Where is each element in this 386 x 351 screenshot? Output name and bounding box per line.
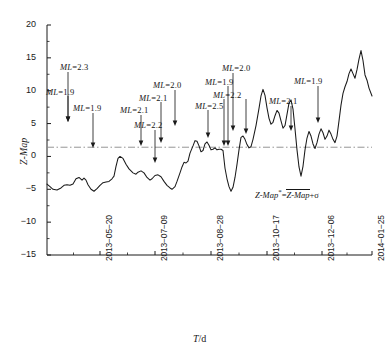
y-tick-label: −5 (6, 183, 36, 193)
arrow-head (173, 121, 178, 127)
magnitude-symbol: ML (46, 87, 58, 97)
magnitude-value: =2.1 (281, 96, 297, 106)
arrow-head (316, 118, 321, 124)
event-arrow (66, 96, 71, 122)
magnitude-symbol: ML (195, 101, 207, 111)
arrow-head (159, 138, 164, 144)
axis-lines (47, 25, 372, 255)
event-arrow (153, 130, 158, 163)
y-tick-label: 20 (6, 19, 36, 29)
x-tick-label: 2013−07−09 (159, 215, 169, 261)
magnitude-value: =1.9 (58, 87, 74, 97)
arrow-head (206, 133, 211, 139)
event-arrow (206, 110, 211, 138)
event-arrow (173, 90, 178, 126)
arrow-head (289, 126, 294, 132)
magnitude-symbol: ML (222, 63, 234, 73)
magnitude-value: =2.2 (225, 90, 241, 100)
y-tick-label: 10 (6, 85, 36, 95)
formula-overline-term: Z-Map (286, 189, 309, 200)
formula-sigma-term: +σ (310, 190, 319, 200)
x-tick-label: 2013−10−17 (271, 215, 281, 261)
magnitude-symbol: ML (294, 76, 306, 86)
magnitude-label: ML=2.5 (195, 101, 223, 111)
magnitude-label: ML=2.1 (120, 105, 148, 115)
event-arrow (244, 99, 249, 134)
magnitude-label: ML=1.9 (46, 87, 74, 97)
magnitude-value: =1.9 (217, 77, 233, 87)
magnitude-label: ML=2.1 (269, 96, 297, 106)
magnitude-label: ML=2.0 (222, 63, 250, 73)
magnitude-symbol: ML (139, 93, 151, 103)
magnitude-label: ML=2.3 (60, 62, 88, 72)
magnitude-value: =2.1 (151, 93, 167, 103)
magnitude-label: ML=2.1 (139, 93, 167, 103)
magnitude-symbol: ML (73, 103, 85, 113)
magnitude-symbol: ML (269, 96, 281, 106)
x-tick-label: 2013−12−06 (326, 215, 336, 261)
y-tick-label: 5 (6, 118, 36, 128)
x-tick-label: 2013−05−20 (104, 215, 114, 261)
magnitude-value: =2.0 (165, 80, 181, 90)
magnitude-value: =2.3 (72, 62, 88, 72)
x-tick-label: 2013−08−28 (215, 215, 225, 261)
magnitude-symbol: ML (153, 80, 165, 90)
arrow-head (244, 129, 249, 135)
magnitude-label: ML=1.9 (294, 76, 322, 86)
x-tick-label: 2014−01−25 (376, 215, 386, 261)
arrow-head (231, 126, 236, 132)
magnitude-label: ML=2.2 (213, 90, 241, 100)
magnitude-value: =1.9 (85, 103, 101, 113)
formula-lhs: Z-Map (255, 190, 278, 200)
magnitude-value: =2.1 (132, 105, 148, 115)
y-axis-title: Z-Map (18, 138, 29, 165)
y-tick-label: −10 (6, 216, 36, 226)
magnitude-label: ML=2.0 (153, 80, 181, 90)
magnitude-symbol: ML (134, 120, 146, 130)
magnitude-label: ML=1.9 (205, 77, 233, 87)
arrow-head (66, 117, 71, 123)
y-axis-ticks (47, 25, 51, 255)
y-tick-label: 15 (6, 52, 36, 62)
event-arrow (91, 113, 96, 148)
y-tick-label: −15 (6, 249, 36, 259)
event-arrows (66, 72, 321, 163)
arrow-head (226, 141, 231, 147)
magnitude-value: =2.0 (234, 63, 250, 73)
magnitude-label: ML=1.9 (73, 103, 101, 113)
magnitude-symbol: ML (60, 62, 72, 72)
threshold-formula: Z-Map*=Z-Map+σ (255, 188, 319, 200)
arrow-head (222, 141, 227, 147)
magnitude-symbol: ML (120, 105, 132, 115)
magnitude-value: =1.9 (306, 76, 322, 86)
x-axis-title-unit: /d (199, 333, 207, 344)
magnitude-symbol: ML (213, 90, 225, 100)
event-arrow (316, 86, 321, 123)
magnitude-value: =2.5 (207, 101, 223, 111)
magnitude-label: ML=2.2 (134, 120, 162, 130)
magnitude-value: =2.2 (146, 120, 162, 130)
z-map-series-line (47, 51, 372, 192)
magnitude-symbol: ML (205, 77, 217, 87)
x-axis-title: T/d (193, 333, 206, 344)
arrow-head (139, 141, 144, 147)
arrow-head (153, 158, 158, 164)
